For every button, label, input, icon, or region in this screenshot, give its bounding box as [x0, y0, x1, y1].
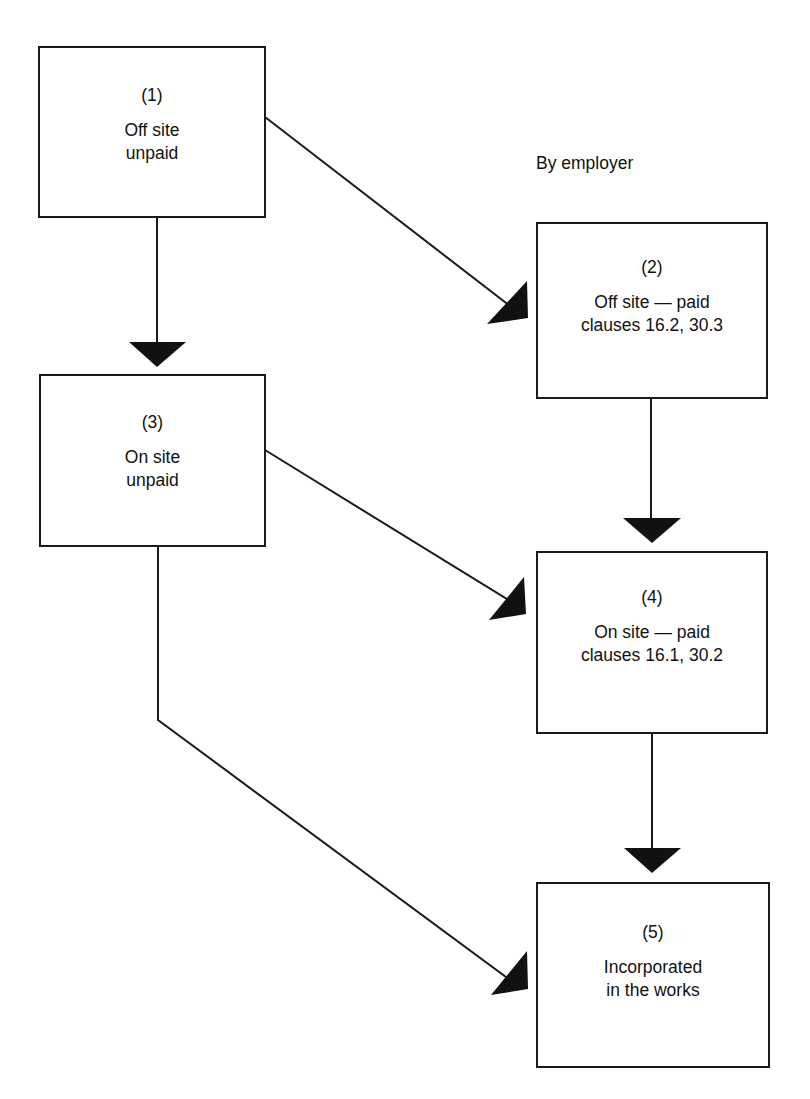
node-label-line: unpaid	[41, 469, 264, 492]
edge-2-to-4	[623, 398, 681, 543]
edge-1-to-3	[129, 217, 186, 367]
arrowhead-down-icon	[623, 518, 681, 543]
node-label-line: Off site — paid	[538, 291, 766, 314]
node-number: (3)	[41, 411, 264, 434]
node-label-line: On site	[41, 446, 264, 469]
arrowhead-diagonal-icon	[489, 577, 526, 620]
node-label-line: unpaid	[40, 142, 264, 165]
node-number: (5)	[538, 921, 768, 944]
arrowhead-diagonal-icon	[491, 951, 528, 995]
annotation-by-employer: By employer	[536, 153, 633, 174]
node-label-line: On site — paid	[538, 621, 766, 644]
node-5-incorporated: (5) Incorporated in the works	[536, 882, 770, 1068]
node-label-line: Off site	[40, 119, 264, 142]
arrowhead-down-icon	[624, 848, 681, 873]
node-1-off-site-unpaid: (1) Off site unpaid	[38, 46, 266, 218]
node-label-line: Incorporated	[538, 956, 768, 979]
node-number: (2)	[538, 256, 766, 279]
edge-1-to-2	[265, 117, 528, 324]
edge-4-to-5	[624, 733, 681, 873]
node-label-line: in the works	[538, 979, 768, 1002]
arrowhead-down-icon	[129, 342, 186, 367]
node-4-on-site-paid: (4) On site — paid clauses 16.1, 30.2	[536, 551, 768, 734]
node-label-line: clauses 16.2, 30.3	[538, 314, 766, 337]
edge-3-to-5	[158, 546, 528, 995]
node-label-line: clauses 16.1, 30.2	[538, 644, 766, 667]
arrowhead-diagonal-icon	[487, 281, 528, 324]
node-3-on-site-unpaid: (3) On site unpaid	[39, 374, 266, 547]
node-number: (4)	[538, 586, 766, 609]
edge-3-to-4	[265, 450, 526, 620]
node-2-off-site-paid: (2) Off site — paid clauses 16.2, 30.3	[536, 222, 768, 399]
node-number: (1)	[40, 84, 264, 107]
